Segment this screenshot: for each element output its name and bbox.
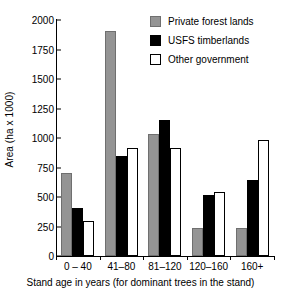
bar[interactable] bbox=[116, 156, 127, 256]
y-axis-tick: 1500 bbox=[32, 74, 56, 85]
legend-entry[interactable]: Other government bbox=[150, 54, 254, 65]
bar[interactable] bbox=[159, 120, 170, 256]
bar[interactable] bbox=[214, 192, 225, 256]
legend-label: USFS timberlands bbox=[168, 35, 249, 46]
legend-swatch bbox=[150, 35, 161, 46]
x-axis-tick-label: 81–120 bbox=[148, 261, 181, 272]
y-axis-tick: 1250 bbox=[32, 103, 56, 114]
y-axis-tick: 1000 bbox=[32, 133, 56, 144]
legend-swatch bbox=[150, 16, 161, 27]
bar[interactable] bbox=[203, 195, 214, 256]
legend-label: Other government bbox=[168, 54, 249, 65]
legend: Private forest landsUSFS timberlandsOthe… bbox=[150, 16, 254, 65]
y-axis-tick: 500 bbox=[37, 192, 56, 203]
y-axis-tick: 2000 bbox=[32, 15, 56, 26]
x-axis-tick-label: 0 – 40 bbox=[64, 261, 92, 272]
y-axis-tick-label: 1250 bbox=[32, 103, 57, 114]
y-axis-tick: 1750 bbox=[32, 44, 56, 55]
bar[interactable] bbox=[61, 173, 72, 256]
y-axis-tick-label: 750 bbox=[37, 162, 57, 173]
y-axis-tick-label: 500 bbox=[37, 192, 57, 203]
bar[interactable] bbox=[170, 148, 181, 256]
y-axis-title: Area (ha x 1000) bbox=[0, 0, 18, 258]
bar[interactable] bbox=[192, 228, 203, 256]
bar[interactable] bbox=[247, 180, 258, 256]
bar-group bbox=[100, 20, 144, 256]
bar[interactable] bbox=[127, 148, 138, 256]
x-axis-line bbox=[56, 256, 275, 257]
bar[interactable] bbox=[83, 221, 94, 256]
legend-swatch bbox=[150, 54, 161, 65]
bar[interactable] bbox=[236, 228, 247, 256]
x-axis-tick-label: 41–80 bbox=[107, 261, 135, 272]
y-axis-title-label: Area (ha x 1000) bbox=[4, 91, 15, 167]
y-axis-tick-label: 1000 bbox=[32, 133, 57, 144]
y-axis-tick-label: 1750 bbox=[32, 44, 57, 55]
x-axis-tick-label: 120–160 bbox=[189, 261, 228, 272]
x-axis-tick-mark bbox=[274, 256, 275, 260]
x-axis-title: Stand age in years (for dominant trees i… bbox=[0, 277, 281, 288]
y-axis-tick-label: 1500 bbox=[32, 74, 57, 85]
legend-label: Private forest lands bbox=[168, 16, 254, 27]
y-axis-tick: 0 bbox=[48, 251, 56, 262]
bar[interactable] bbox=[258, 140, 269, 256]
bar[interactable] bbox=[148, 134, 159, 256]
x-axis-tick-mark bbox=[56, 256, 57, 260]
x-axis-tick-label: 160+ bbox=[241, 261, 264, 272]
bar-group bbox=[56, 20, 100, 256]
y-axis-tick: 250 bbox=[37, 221, 56, 232]
x-axis-tick-mark bbox=[100, 256, 101, 260]
legend-entry[interactable]: USFS timberlands bbox=[150, 35, 254, 46]
bar[interactable] bbox=[72, 208, 83, 256]
bar[interactable] bbox=[105, 31, 116, 256]
x-axis-tick-mark bbox=[187, 256, 188, 260]
y-axis-tick: 750 bbox=[37, 162, 56, 173]
x-axis-tick-mark bbox=[230, 256, 231, 260]
legend-entry[interactable]: Private forest lands bbox=[150, 16, 254, 27]
bar-chart: Area (ha x 1000) 02505007501000125015001… bbox=[0, 0, 281, 298]
y-axis-tick-label: 250 bbox=[37, 221, 57, 232]
x-axis-tick-mark bbox=[143, 256, 144, 260]
y-axis-tick-label: 2000 bbox=[32, 15, 57, 26]
